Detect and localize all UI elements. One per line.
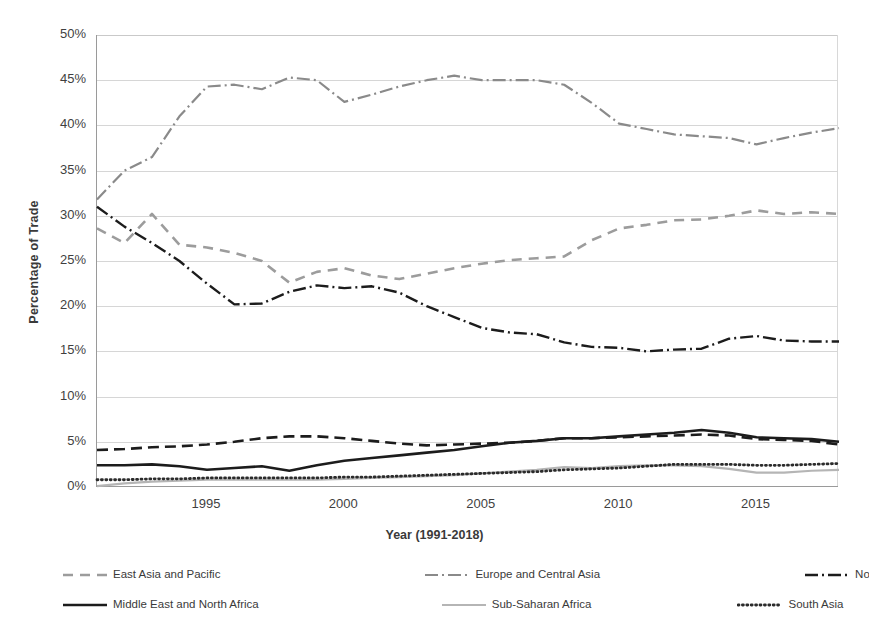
legend-item[interactable]: East Asia and Pacific: [62, 569, 220, 581]
y-tick-label: 30%: [36, 207, 86, 222]
y-tick-label: 35%: [36, 162, 86, 177]
legend-line-swatch: [62, 569, 108, 581]
legend-line-swatch: [424, 569, 470, 581]
series-line: [97, 465, 839, 486]
legend-label: Middle East and North Africa: [113, 599, 259, 611]
legend-item[interactable]: South Asia: [737, 599, 843, 611]
series-lines: [97, 35, 839, 487]
x-tick-label: 2010: [588, 496, 648, 511]
series-line: [97, 210, 839, 282]
legend-label: North America: [855, 569, 869, 581]
x-axis-title: Year (1991-2018): [0, 528, 869, 542]
legend-item[interactable]: Middle East and North Africa: [62, 599, 259, 611]
legend-label: Sub-Saharan Africa: [492, 599, 592, 611]
legend-row: East Asia and PacificEurope and Central …: [0, 560, 869, 590]
y-tick-label: 20%: [36, 297, 86, 312]
x-tick-label: 2015: [726, 496, 786, 511]
legend-label: South Asia: [788, 599, 843, 611]
y-tick-label: 25%: [36, 252, 86, 267]
legend-line-swatch: [62, 599, 108, 611]
y-tick-label: 5%: [36, 433, 86, 448]
series-line: [97, 207, 839, 352]
series-line: [97, 464, 839, 480]
chart-legend: East Asia and PacificEurope and Central …: [0, 560, 869, 620]
y-tick-label: 50%: [36, 26, 86, 41]
legend-line-swatch: [804, 569, 850, 581]
plot-area: [96, 35, 838, 487]
legend-item[interactable]: Europe and Central Asia: [424, 569, 600, 581]
x-tick-label: 2005: [451, 496, 511, 511]
legend-item[interactable]: Sub-Saharan Africa: [441, 599, 592, 611]
legend-label: Europe and Central Asia: [475, 569, 600, 581]
x-tick-label: 2000: [313, 496, 373, 511]
y-tick-label: 45%: [36, 71, 86, 86]
legend-item[interactable]: North America: [804, 569, 869, 581]
y-tick-label: 10%: [36, 388, 86, 403]
y-tick-label: 0%: [36, 478, 86, 493]
y-tick-label: 40%: [36, 116, 86, 131]
series-line: [97, 76, 839, 200]
x-tick-label: 1995: [176, 496, 236, 511]
y-tick-label: 15%: [36, 342, 86, 357]
legend-label: East Asia and Pacific: [113, 569, 220, 581]
legend-line-swatch: [441, 599, 487, 611]
chart-figure: Percentage of Trade 0%5%10%15%20%25%30%3…: [0, 0, 869, 638]
legend-line-swatch: [737, 599, 783, 611]
legend-row: Middle East and North AfricaSub-Saharan …: [0, 590, 869, 620]
